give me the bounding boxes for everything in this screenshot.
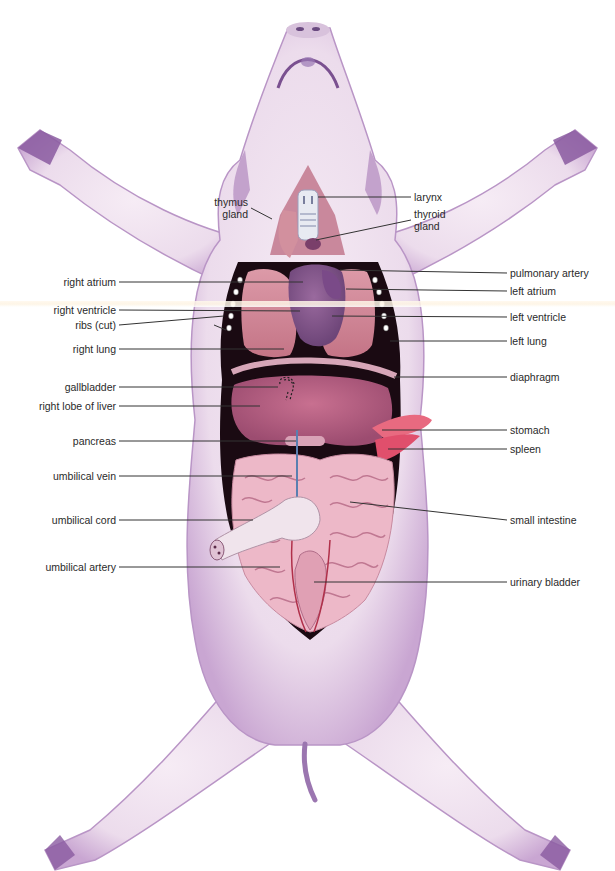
label-pulmonary-artery: pulmonary artery	[510, 267, 589, 279]
larynx	[298, 190, 318, 240]
label-left-lung: left lung	[510, 335, 547, 347]
label-larynx: larynx	[414, 191, 442, 203]
label-right-ventricle: right ventricle	[54, 304, 116, 316]
label-umbilical-cord: umbilical cord	[52, 514, 116, 526]
label-umbilical-artery: umbilical artery	[45, 561, 116, 573]
label-gallbladder: gallbladder	[65, 381, 116, 393]
liver	[231, 376, 392, 446]
label-left-ventricle: left ventricle	[510, 311, 566, 323]
label-right-atrium: right atrium	[63, 276, 116, 288]
label-right-lobe-of-liver: right lobe of liver	[39, 400, 116, 412]
label-pancreas: pancreas	[73, 435, 116, 447]
label-stomach: stomach	[510, 424, 550, 436]
label-right-lung: right lung	[73, 343, 116, 355]
label-left-atrium: left atrium	[510, 285, 556, 297]
tail	[304, 744, 315, 800]
label-ribs-cut: ribs (cut)	[75, 319, 116, 331]
label-umbilical-vein: umbilical vein	[53, 470, 116, 482]
label-thymus-gland: thymus gland	[214, 196, 248, 220]
label-small-intestine: small intestine	[510, 514, 577, 526]
label-thyroid-gland: thyroid gland	[414, 208, 446, 232]
label-diaphragm: diaphragm	[510, 371, 560, 383]
label-spleen: spleen	[510, 443, 541, 455]
label-urinary-bladder: urinary bladder	[510, 576, 580, 588]
